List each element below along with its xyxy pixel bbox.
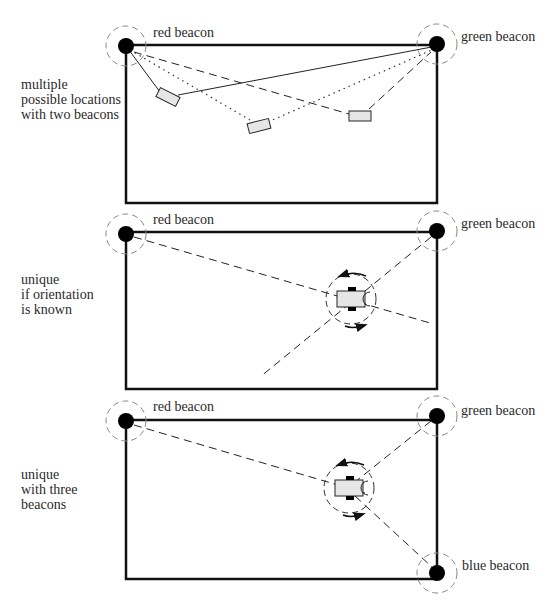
- green-beacon-label: green beacon: [461, 29, 535, 44]
- blue-beacon-icon: [429, 565, 445, 581]
- bearing-line-dashed: [134, 52, 349, 114]
- red-beacon-label: red beacon: [153, 212, 214, 227]
- robot-candidate-icon: [156, 88, 180, 107]
- robot-icon: [337, 287, 370, 311]
- panel-three-beacons: [106, 396, 457, 593]
- caption-line: is known: [21, 302, 94, 317]
- panel-caption: unique with three beacons: [21, 467, 77, 512]
- green-beacon-icon: [429, 36, 445, 52]
- caption-line: multiple: [21, 77, 121, 92]
- green-beacon-label: green beacon: [461, 216, 535, 231]
- caption-line: unique: [21, 467, 77, 482]
- arena-frame: [126, 232, 437, 389]
- red-beacon-icon: [118, 413, 134, 429]
- arena-frame: [126, 420, 437, 579]
- caption-line: possible locations: [21, 92, 121, 107]
- robot-icon: [335, 476, 368, 500]
- panel-caption: multiple possible locations with two bea…: [21, 77, 121, 122]
- blue-beacon-label: blue beacon: [462, 558, 529, 573]
- bearing-line-dashed: [134, 237, 430, 323]
- green-beacon-icon: [429, 408, 445, 424]
- panel-caption: unique if orientation is known: [21, 272, 94, 317]
- caption-line: with two beacons: [21, 107, 121, 122]
- bearing-line-solid: [178, 46, 437, 95]
- bearing-line-solid: [126, 46, 160, 92]
- red-beacon-label: red beacon: [153, 399, 214, 414]
- red-beacon-label: red beacon: [153, 25, 214, 40]
- panel-two-beacons: [106, 24, 457, 203]
- caption-line: if orientation: [21, 287, 94, 302]
- robot-candidate-icon: [349, 111, 371, 121]
- caption-line: with three: [21, 482, 77, 497]
- panel-orientation-known: [106, 211, 457, 389]
- green-beacon-icon: [429, 223, 445, 239]
- caption-line: beacons: [21, 497, 77, 512]
- rotate-cw-arrow-icon: [343, 515, 360, 517]
- robot-candidate-icon: [247, 118, 271, 133]
- green-beacon-label: green beacon: [461, 403, 535, 418]
- red-beacon-icon: [118, 226, 134, 242]
- rotate-cw-arrow-icon: [345, 326, 362, 328]
- bearing-line-dashed: [134, 425, 365, 493]
- caption-line: unique: [21, 272, 94, 287]
- bearing-line-dashed: [355, 496, 432, 567]
- bearing-line-dashed: [369, 52, 431, 109]
- red-beacon-icon: [118, 38, 134, 54]
